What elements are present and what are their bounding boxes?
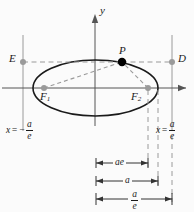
point-D-marker (169, 59, 175, 65)
left-directrix-equation: x = − a e (6, 120, 33, 141)
ellipse-directrix-figure: y E D P F1 F2 x = − a e x = a e ae a a e (0, 0, 194, 212)
ae-dimension-label: ae (113, 158, 126, 168)
left-directrix-lhs: x (6, 126, 10, 136)
a-dimension-arrow-left (96, 179, 103, 184)
right-directrix-equation: x = a e (156, 120, 175, 141)
point-label-P: P (119, 45, 126, 56)
point-label-F1: F1 (40, 91, 50, 103)
ae-dimension-arrow-right (141, 161, 148, 166)
right-directrix-numerator: a (169, 120, 176, 130)
a-over-e-denominator: e (132, 202, 136, 212)
x-axis-arrow (178, 85, 186, 91)
right-directrix-equals: = (161, 126, 167, 136)
a-over-e-dimension-label: a e (128, 190, 141, 211)
ae-dimension-arrow-left (96, 161, 103, 166)
point-label-F2: F2 (131, 91, 141, 103)
y-axis-label: y (100, 5, 105, 16)
point-label-F1-sub: 1 (47, 95, 51, 103)
a-over-e-numerator: a (132, 190, 137, 200)
figure-canvas (0, 0, 194, 212)
right-directrix-denominator: e (169, 132, 175, 142)
point-label-F2-base: F (131, 90, 138, 102)
left-directrix-sign: − (19, 126, 25, 136)
point-P-marker (118, 58, 126, 66)
point-F2-marker (145, 85, 151, 91)
right-directrix-lhs: x (156, 126, 160, 136)
left-directrix-equals: = (11, 126, 17, 136)
left-directrix-numerator: a (26, 120, 33, 130)
right-directrix-fraction: a e (169, 120, 176, 141)
left-directrix-denominator: e (26, 132, 32, 142)
a-over-e-dimension-arrow-right (165, 197, 172, 202)
point-label-F1-base: F (40, 90, 47, 102)
y-axis-arrow (92, 14, 98, 23)
left-directrix-fraction: a e (26, 120, 33, 141)
point-label-E: E (9, 53, 16, 64)
a-dimension-arrow-right (151, 179, 158, 184)
point-label-F2-sub: 2 (138, 95, 142, 103)
a-over-e-dimension-arrow-left (96, 197, 103, 202)
a-dimension-label: a (123, 176, 132, 186)
point-label-D: D (178, 53, 186, 64)
point-E-marker (20, 59, 26, 65)
